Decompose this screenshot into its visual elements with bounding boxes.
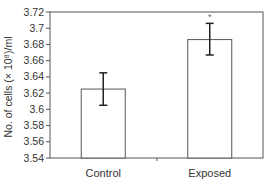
y-tick-label: 3.62 bbox=[24, 87, 45, 99]
x-category-label: Control bbox=[86, 167, 121, 179]
y-tick-label: 3.72 bbox=[24, 6, 45, 18]
y-tick-label: 3.58 bbox=[24, 119, 45, 131]
y-tick-label: 3.64 bbox=[24, 70, 45, 82]
bar-chart: 3.543.563.583.63.623.643.663.683.73.72 C… bbox=[0, 0, 266, 192]
y-axis-label: No. of cells (× 10⁸)/ml bbox=[2, 36, 14, 137]
bar-exposed bbox=[188, 40, 232, 158]
y-tick-label: 3.56 bbox=[24, 135, 45, 147]
significance-asterisk: * bbox=[208, 12, 212, 22]
y-tick-label: 3.6 bbox=[29, 103, 44, 115]
y-tick-label: 3.68 bbox=[24, 38, 45, 50]
y-tick-label: 3.66 bbox=[24, 54, 45, 66]
y-tick-label: 3.54 bbox=[24, 152, 45, 164]
bars: ControlExposed* bbox=[81, 12, 232, 179]
y-tick-label: 3.7 bbox=[29, 22, 44, 34]
x-category-label: Exposed bbox=[188, 167, 231, 179]
